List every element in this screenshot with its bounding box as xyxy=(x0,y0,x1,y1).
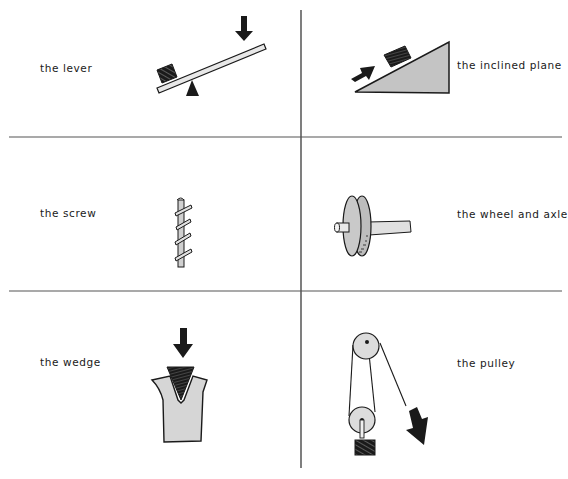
pulley-load-block xyxy=(355,440,375,455)
upper-pulley-wheel xyxy=(353,333,379,359)
arrow-down-right-icon xyxy=(406,407,428,445)
pulley-illustration xyxy=(0,0,568,479)
